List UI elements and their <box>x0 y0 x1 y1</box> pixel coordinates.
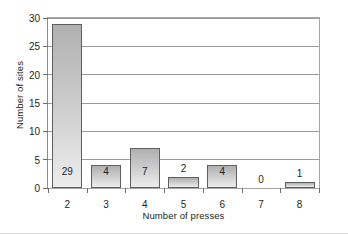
y-axis-tick <box>43 159 48 160</box>
x-axis-tick <box>242 188 243 193</box>
x-axis-tick-label: 5 <box>181 199 187 210</box>
y-axis-tick-label: 20 <box>29 69 40 80</box>
bar-value-label: 4 <box>103 166 109 177</box>
gridline <box>48 18 319 19</box>
bar-value-label: 1 <box>297 168 303 179</box>
y-axis-tick <box>43 103 48 104</box>
gridline <box>48 131 319 132</box>
y-axis-tick-label: 5 <box>34 154 40 165</box>
bar-chart-figure: Number of sites Number of presses 051015… <box>0 0 348 234</box>
y-axis-tick <box>43 18 48 19</box>
x-axis-tick <box>125 188 126 193</box>
y-axis-tick <box>43 131 48 132</box>
bar-value-label: 29 <box>62 166 73 177</box>
x-axis-tick-label: 8 <box>297 199 303 210</box>
bar-value-label: 7 <box>142 166 148 177</box>
y-axis-tick <box>43 74 48 75</box>
y-axis-tick-label: 15 <box>29 98 40 109</box>
x-axis-tick-label: 2 <box>65 199 71 210</box>
x-axis-tick-label: 4 <box>142 199 148 210</box>
y-axis-tick-label: 0 <box>34 183 40 194</box>
x-axis-tick-label: 3 <box>103 199 109 210</box>
x-axis-tick-label: 6 <box>219 199 225 210</box>
x-axis-tick <box>87 188 88 193</box>
x-axis-tick <box>164 188 165 193</box>
plot-area: 051015202530 29472401 2345678 <box>47 17 320 189</box>
bar-value-label: 4 <box>219 166 225 177</box>
gridline <box>48 159 319 160</box>
x-axis-tick <box>319 188 320 193</box>
bar <box>168 177 198 188</box>
x-axis-tick-label: 7 <box>258 199 264 210</box>
x-axis-tick <box>280 188 281 193</box>
bar <box>285 182 315 188</box>
x-axis-tick <box>48 188 49 193</box>
gridline <box>48 103 319 104</box>
bar-value-label: 0 <box>258 174 264 185</box>
y-axis-title: Number of sites <box>14 15 28 175</box>
y-axis-tick <box>43 46 48 47</box>
x-axis-tick <box>203 188 204 193</box>
y-axis-tick-label: 10 <box>29 126 40 137</box>
y-axis-tick-label: 30 <box>29 13 40 24</box>
y-axis-tick-label: 25 <box>29 41 40 52</box>
bar <box>52 24 82 188</box>
bar-value-label: 2 <box>181 163 187 174</box>
gridline <box>48 46 319 47</box>
gridline <box>48 74 319 75</box>
x-axis-title: Number of presses <box>47 210 320 221</box>
